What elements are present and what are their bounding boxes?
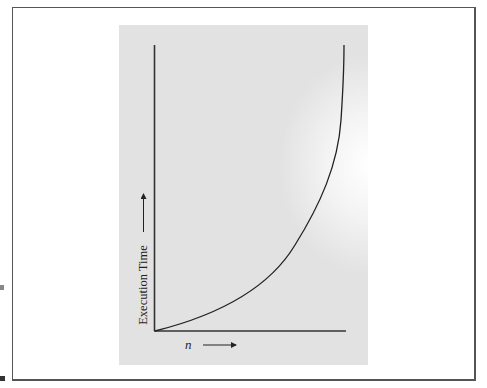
y-axis-label: Execution Time <box>136 245 151 325</box>
growth-curve <box>155 45 344 331</box>
x-axis-label: n <box>185 337 192 353</box>
chart-plot <box>0 0 487 388</box>
